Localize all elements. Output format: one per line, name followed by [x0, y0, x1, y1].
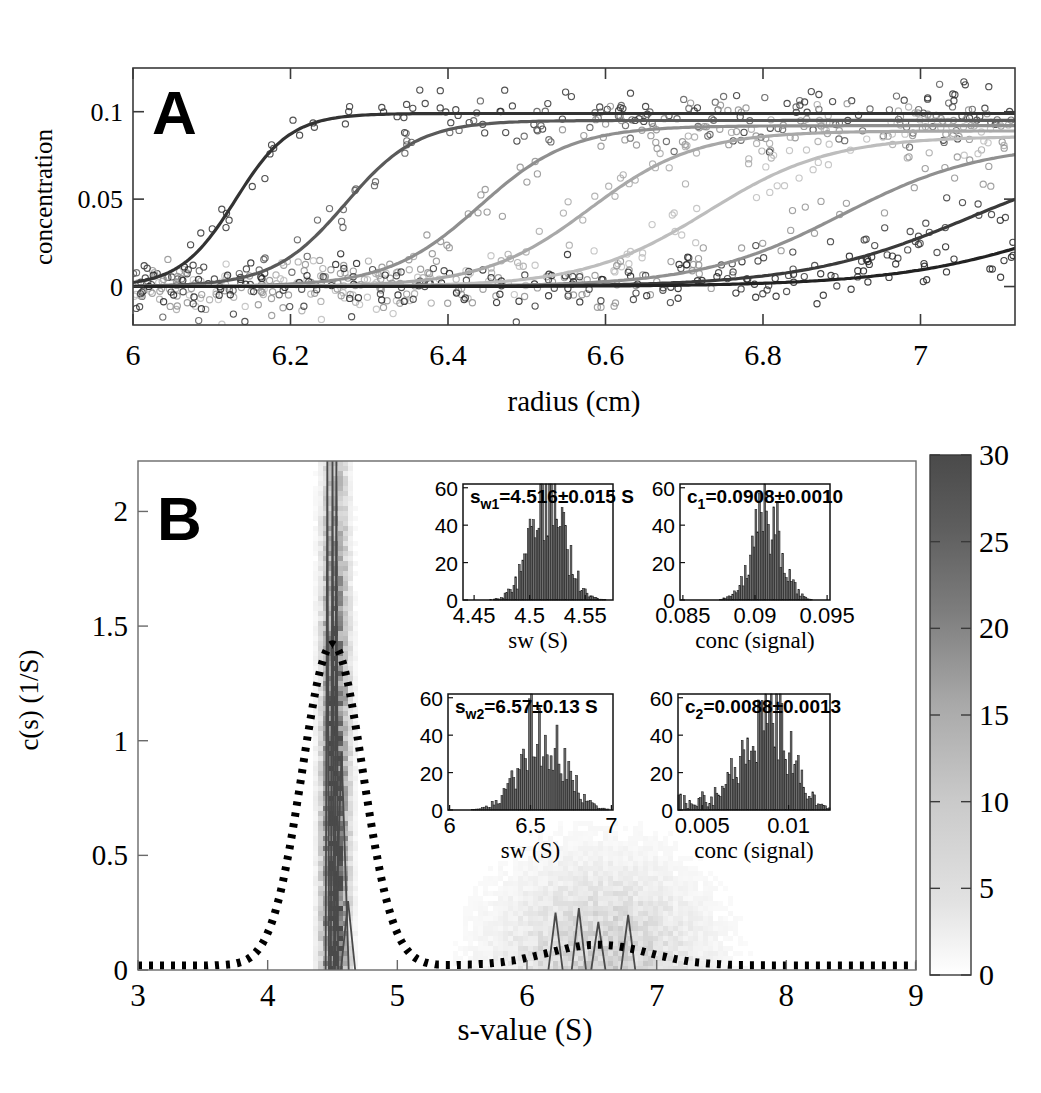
density-cell	[313, 611, 318, 616]
density-cell	[633, 891, 638, 896]
density-cell	[628, 866, 633, 871]
density-cell	[693, 916, 698, 921]
density-cell	[613, 916, 618, 921]
density-cell	[348, 616, 353, 621]
density-cell	[678, 961, 683, 966]
density-cell	[588, 821, 593, 826]
density-cell	[498, 871, 503, 876]
density-cell	[353, 516, 358, 521]
density-cell	[348, 571, 353, 576]
density-cell	[348, 581, 353, 586]
density-cell	[683, 876, 688, 881]
density-cell	[633, 901, 638, 906]
histogram-bar	[515, 789, 517, 810]
density-cell	[718, 881, 723, 886]
density-cell	[723, 936, 728, 941]
density-cell	[318, 596, 323, 601]
density-cell	[353, 741, 358, 746]
density-cell	[663, 961, 668, 966]
density-cell	[543, 906, 548, 911]
density-cell	[318, 616, 323, 621]
density-cell	[638, 876, 643, 881]
density-cell	[488, 941, 493, 946]
density-cell	[313, 551, 318, 556]
density-cell	[528, 921, 533, 926]
density-cell	[348, 491, 353, 496]
annotation-value: =4.516±0.015 S	[499, 486, 634, 507]
density-cell	[598, 911, 603, 916]
density-cell	[558, 911, 563, 916]
density-cell	[533, 936, 538, 941]
y-axis-tick-label: 1	[114, 725, 129, 757]
density-cell	[348, 626, 353, 631]
density-cell	[713, 886, 718, 891]
density-cell	[348, 606, 353, 611]
density-cell	[638, 826, 643, 831]
density-cell	[523, 936, 528, 941]
density-cell	[683, 891, 688, 896]
density-cell	[583, 871, 588, 876]
density-cell	[538, 946, 543, 951]
density-cell	[318, 511, 323, 516]
density-cell	[353, 791, 358, 796]
density-cell	[338, 571, 343, 576]
density-cell	[678, 956, 683, 961]
density-cell	[548, 911, 553, 916]
density-cell	[578, 831, 583, 836]
density-cell	[658, 886, 663, 891]
density-cell	[468, 906, 473, 911]
density-cell	[313, 606, 318, 611]
density-cell	[583, 831, 588, 836]
density-cell	[498, 936, 503, 941]
density-cell	[723, 956, 728, 961]
density-cell	[313, 916, 318, 921]
density-cell	[648, 841, 653, 846]
density-cell	[338, 566, 343, 571]
density-cell	[708, 886, 713, 891]
density-cell	[698, 931, 703, 936]
density-cell	[313, 641, 318, 646]
density-cell	[733, 921, 738, 926]
density-cell	[538, 941, 543, 946]
density-cell	[713, 951, 718, 956]
density-cell	[343, 461, 348, 466]
density-cell	[698, 906, 703, 911]
density-cell	[513, 906, 518, 911]
density-cell	[683, 886, 688, 891]
density-cell	[663, 941, 668, 946]
density-cell	[313, 616, 318, 621]
density-cell	[338, 896, 343, 901]
histogram-bar	[509, 779, 511, 810]
density-cell	[623, 871, 628, 876]
density-cell	[498, 916, 503, 921]
density-cell	[613, 896, 618, 901]
density-cell	[613, 941, 618, 946]
density-cell	[708, 916, 713, 921]
density-cell	[543, 901, 548, 906]
density-cell	[513, 886, 518, 891]
density-cell	[503, 921, 508, 926]
density-cell	[643, 881, 648, 886]
density-cell	[723, 916, 728, 921]
density-cell	[498, 891, 503, 896]
density-cell	[468, 916, 473, 921]
density-cell	[348, 856, 353, 861]
density-cell	[593, 856, 598, 861]
density-cell	[588, 896, 593, 901]
density-cell	[583, 856, 588, 861]
density-cell	[678, 946, 683, 951]
density-cell	[318, 756, 323, 761]
density-cell	[318, 951, 323, 956]
density-cell	[313, 491, 318, 496]
density-cell	[318, 871, 323, 876]
density-cell	[658, 911, 663, 916]
density-cell	[613, 946, 618, 951]
density-cell	[543, 911, 548, 916]
density-cell	[648, 941, 653, 946]
density-cell	[548, 866, 553, 871]
density-cell	[353, 611, 358, 616]
density-cell	[573, 856, 578, 861]
density-cell	[518, 871, 523, 876]
density-cell	[343, 546, 348, 551]
histogram-bar	[586, 801, 588, 810]
